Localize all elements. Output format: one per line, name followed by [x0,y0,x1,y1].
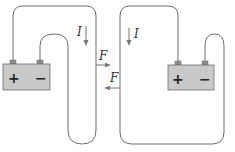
right-battery-plus-sign: + [172,71,184,87]
right-current-arrow-icon [127,28,132,46]
left-force-label: F [98,49,108,63]
left-current-arrow-icon [84,26,89,46]
right-battery-positive-terminal [175,61,181,65]
parallel-wires-diagram: + − I F + − I F [0,0,235,152]
left-current-label: I [76,25,82,39]
right-force-label: F [109,71,119,85]
right-circuit: + − I F [104,6,224,144]
right-battery-negative-terminal [202,61,208,65]
left-battery-minus-sign: − [35,70,47,86]
left-battery-plus-sign: + [8,70,20,86]
left-battery-positive-terminal [10,60,16,64]
right-battery: + − [168,61,214,90]
right-current-label: I [133,27,139,41]
left-circuit: + − I F [3,6,111,144]
left-force-arrow-icon [96,63,111,67]
left-battery: + − [3,60,50,90]
right-battery-minus-sign: − [199,71,211,87]
left-battery-negative-terminal [37,60,43,64]
right-force-arrow-icon [104,86,120,90]
